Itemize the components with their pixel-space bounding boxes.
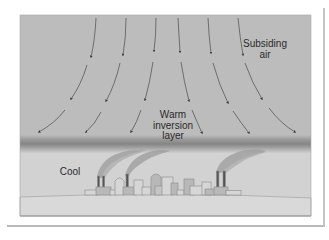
ground	[20, 194, 311, 216]
warm-inversion-layer-label: Warm inversion layer	[148, 110, 198, 142]
subsiding-air-label: Subsiding air	[240, 38, 290, 60]
cool-label: Cool	[55, 166, 85, 177]
warm-label-line3: layer	[148, 131, 198, 142]
subsiding-air-label-line1: Subsiding	[240, 38, 290, 49]
warm-label-line1: Warm	[148, 110, 198, 121]
subsiding-air-label-line2: air	[240, 49, 290, 60]
